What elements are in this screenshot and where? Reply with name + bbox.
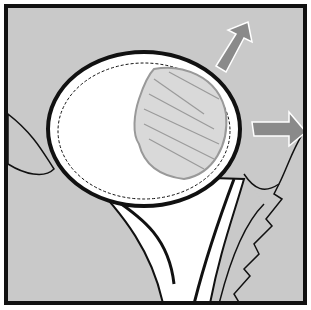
bladder-illustration: [8, 8, 307, 305]
arrow-up-right-icon: [216, 22, 252, 72]
illustration-frame: [4, 4, 307, 305]
